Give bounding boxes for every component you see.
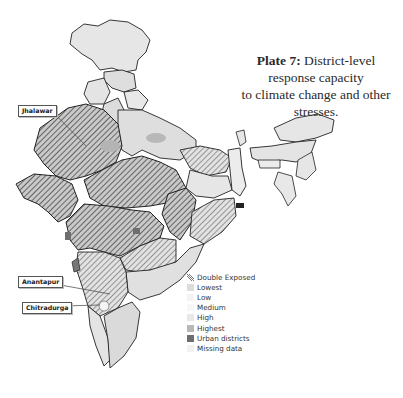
lowest-swatch-icon (187, 284, 194, 291)
urban-swatch-icon (187, 335, 194, 342)
callout-label: Chitradurga (26, 304, 68, 311)
legend-item-lowest: Lowest (187, 282, 255, 292)
region-sikkim (236, 130, 246, 146)
legend-label: Highest (197, 324, 225, 333)
medium-swatch-icon (187, 304, 194, 311)
legend-item-highest: Highest (187, 323, 255, 333)
legend-label: High (197, 313, 214, 322)
legend-item-urban: Urban districts (187, 333, 255, 343)
legend-label: Low (197, 293, 211, 302)
chitradurga-district (99, 301, 109, 311)
plate-number: Plate 7: (257, 53, 301, 68)
legend-label: Urban districts (197, 334, 250, 343)
missing-swatch-icon (187, 345, 194, 352)
legend-label: Missing data (197, 344, 242, 353)
high-swatch-icon (187, 314, 194, 321)
legend-item-double-exposed: Double Exposed (187, 272, 255, 282)
region-jammu-kashmir (70, 20, 150, 72)
legend-label: Double Exposed (197, 273, 255, 282)
urban-patch (133, 228, 140, 234)
low-swatch-icon (187, 294, 194, 301)
highest-patch (146, 133, 166, 143)
legend-label: Lowest (197, 283, 222, 292)
legend-item-medium: Medium (187, 303, 255, 313)
region-tripura-mizoram (274, 172, 296, 206)
plate-title: Plate 7: District-level response capacit… (236, 52, 396, 120)
map-legend: Double Exposed Lowest Low Medium High Hi… (187, 272, 255, 354)
callout-chitradurga: Chitradurga (22, 302, 72, 314)
region-gujarat (16, 174, 78, 222)
hatch-swatch-icon (187, 274, 194, 281)
legend-label: Medium (197, 303, 226, 312)
callout-label: Jhalawar (22, 107, 53, 114)
legend-item-low: Low (187, 292, 255, 302)
title-line2: to climate change and other stresses. (241, 87, 390, 119)
legend-item-high: High (187, 313, 255, 323)
callout-jhalawar: Jhalawar (18, 105, 57, 117)
highest-patch (100, 140, 120, 152)
region-bihar (180, 146, 232, 176)
region-meghalaya (258, 160, 280, 168)
legend-item-missing: Missing data (187, 343, 255, 353)
highest-swatch-icon (187, 325, 194, 332)
urban-patch (236, 203, 244, 208)
urban-patch (65, 232, 71, 240)
region-uttarakhand (124, 90, 148, 110)
region-punjab (84, 78, 110, 104)
region-odisha (190, 198, 236, 244)
callout-anantapur: Anantapur (18, 276, 63, 288)
callout-label: Anantapur (22, 278, 59, 285)
